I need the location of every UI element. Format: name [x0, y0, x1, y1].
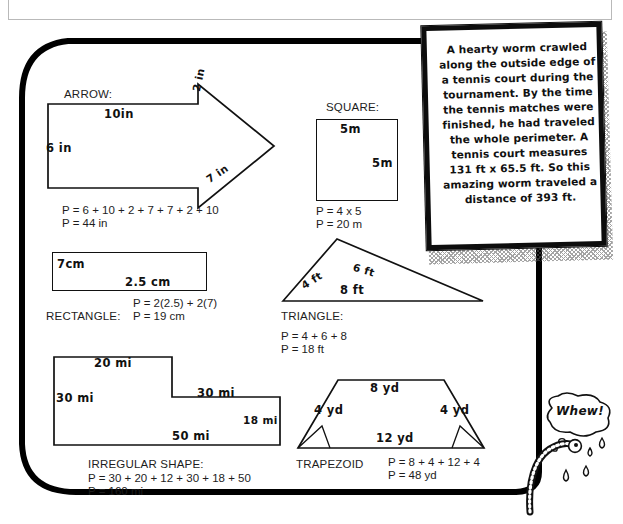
page-top-crop-box	[8, 0, 612, 20]
irregular-perimeter-expression: P = 30 + 20 + 12 + 30 + 18 + 50	[88, 472, 251, 486]
triangle-title: TRIANGLE:	[281, 310, 344, 324]
arrow-title: ARROW:	[64, 88, 112, 102]
square-dim-right: 5m	[372, 157, 393, 171]
square-dim-top: 5m	[340, 123, 361, 137]
irregular-title: IRREGULAR SHAPE:	[88, 458, 204, 472]
irregular-perimeter-value: P = 160 mi	[88, 485, 143, 499]
note-paper: A hearty worm crawled along the outside …	[421, 22, 606, 250]
note-text: A hearty worm crawled along the outside …	[437, 39, 601, 208]
triangle-dim-base: 8 ft	[340, 284, 364, 298]
square-title: SQUARE:	[326, 101, 379, 115]
arrow-perimeter-value: P = 44 in	[62, 217, 108, 231]
square-perimeter-value: P = 20 m	[316, 218, 362, 232]
rectangle-dim-left: 7cm	[57, 258, 85, 272]
word-problem-note: A hearty worm crawled along the outside …	[424, 24, 608, 254]
trapezoid-title: TRAPEZOID	[296, 458, 364, 472]
rectangle-title: RECTANGLE:	[46, 310, 121, 324]
worksheet-page: ARROW: 10in 6 in 2 in 7 in P = 6 + 10 + …	[0, 0, 623, 524]
trapezoid-dim-left-side: 4 yd	[314, 404, 343, 418]
trapezoid-dim-bottom: 12 yd	[376, 432, 414, 446]
irregular-dim-left: 30 mi	[56, 392, 94, 406]
irregular-dim-top: 20 mi	[94, 357, 132, 371]
trapezoid-dim-top: 8 yd	[370, 382, 399, 396]
arrow-dim-top: 10in	[104, 108, 134, 122]
square-perimeter-expression: P = 4 x 5	[316, 205, 362, 219]
irregular-dim-right: 18 mi	[243, 414, 278, 426]
trapezoid-perimeter-expression: P = 8 + 4 + 12 + 4	[388, 456, 480, 470]
triangle-perimeter-expression: P = 4 + 6 + 8	[281, 330, 347, 344]
worm-speech-label: Whew!	[556, 404, 604, 418]
rectangle-perimeter-value: P = 19 cm	[133, 310, 185, 324]
rectangle-perimeter-expression: P = 2(2.5) + 2(7)	[133, 297, 217, 311]
irregular-dim-middle: 30 mi	[197, 387, 235, 401]
arrow-dim-left: 6 in	[46, 142, 72, 156]
irregular-dim-bottom: 50 mi	[172, 430, 210, 444]
arrow-perimeter-expression: P = 6 + 10 + 2 + 7 + 7 + 2 + 10	[62, 204, 219, 218]
trapezoid-dim-right-side: 4 yd	[440, 404, 469, 418]
trapezoid-perimeter-value: P = 48 yd	[388, 469, 437, 483]
rectangle-dim-bottom: 2.5 cm	[125, 276, 171, 290]
